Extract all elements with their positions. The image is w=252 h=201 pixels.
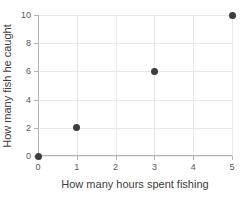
x-tick-mark	[116, 156, 117, 160]
data-point	[73, 124, 80, 131]
gridline-horizontal	[38, 15, 232, 16]
y-tick-label: 8	[26, 38, 31, 48]
x-axis-line	[38, 155, 232, 156]
gridline-horizontal	[38, 156, 232, 157]
x-tick-label: 4	[191, 162, 196, 172]
x-tick-mark	[193, 156, 194, 160]
x-tick-label: 0	[35, 162, 40, 172]
y-tick-label: 2	[26, 123, 31, 133]
x-tick-mark	[232, 156, 233, 160]
gridline-horizontal	[38, 128, 232, 129]
chart-title	[0, 0, 252, 3]
x-tick-label: 1	[74, 162, 79, 172]
scatter-chart: 0246810 012345 How many fish he caught H…	[0, 0, 252, 201]
y-tick-mark	[34, 43, 38, 44]
x-axis-title: How many hours spent fishing	[38, 178, 232, 190]
y-axis-title: How many fish he caught	[0, 15, 13, 156]
gridline-vertical	[154, 15, 155, 156]
data-point	[151, 68, 158, 75]
x-tick-label: 3	[152, 162, 157, 172]
gridline-horizontal	[38, 100, 232, 101]
gridline-horizontal	[38, 43, 232, 44]
plot-area: 0246810 012345	[38, 15, 232, 156]
y-axis-title-text: How many fish he caught	[1, 24, 13, 148]
y-tick-label: 4	[26, 95, 31, 105]
x-tick-label: 5	[229, 162, 234, 172]
y-tick-label: 0	[26, 151, 31, 161]
y-tick-mark	[34, 100, 38, 101]
y-tick-label: 6	[26, 66, 31, 76]
y-tick-mark	[34, 128, 38, 129]
x-tick-label: 2	[113, 162, 118, 172]
gridline-horizontal	[38, 71, 232, 72]
gridline-vertical	[193, 15, 194, 156]
gridline-vertical	[77, 15, 78, 156]
y-tick-mark	[34, 71, 38, 72]
x-tick-mark	[77, 156, 78, 160]
gridline-vertical	[232, 15, 233, 156]
gridline-vertical	[116, 15, 117, 156]
y-tick-label: 10	[21, 10, 31, 20]
data-point	[35, 153, 42, 160]
data-point	[229, 12, 236, 19]
y-tick-mark	[34, 15, 38, 16]
x-tick-mark	[154, 156, 155, 160]
y-axis-line	[38, 15, 39, 156]
